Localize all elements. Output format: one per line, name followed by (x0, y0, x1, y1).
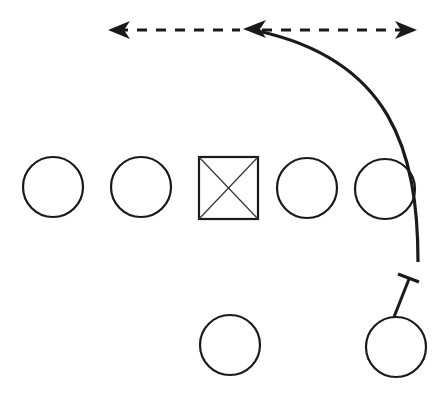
play-diagram (0, 0, 441, 403)
player-right-tackle (355, 159, 415, 219)
player-quarterback (200, 315, 260, 375)
player-left-tackle (23, 157, 83, 217)
player-running-back (366, 317, 426, 377)
dashed-option-line (108, 20, 417, 39)
player-right-guard (277, 158, 337, 218)
curved-route (258, 31, 418, 262)
player-left-guard (111, 157, 171, 217)
center-square-icon (199, 157, 258, 219)
offensive-line (23, 157, 415, 219)
block-marker-icon (394, 274, 419, 317)
backfield (200, 315, 426, 377)
